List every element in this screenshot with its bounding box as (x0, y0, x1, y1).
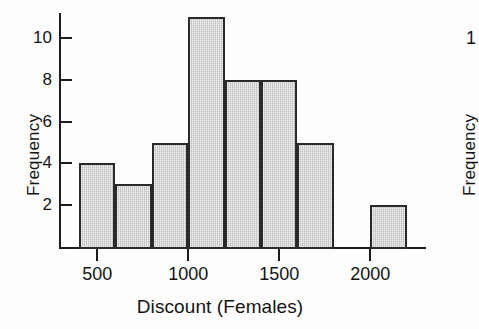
histogram-bar (297, 143, 333, 250)
y-tick (61, 204, 72, 206)
histogram-bar (152, 143, 188, 250)
y-tick (61, 121, 72, 123)
x-tick-label: 2000 (335, 264, 405, 285)
x-tick-label: 1000 (153, 264, 223, 285)
histogram-bar (370, 205, 406, 249)
neighbour-y-axis-title: Frequency (460, 114, 479, 196)
y-axis-line (59, 13, 61, 249)
x-axis-title: Discount (Females) (0, 296, 440, 318)
y-tick-label: 10 (18, 28, 52, 48)
y-tick-label: 2 (18, 195, 52, 215)
histogram-figure: Frequency 246810 500100015002000 Discoun… (0, 0, 479, 329)
histogram-bar (115, 184, 151, 249)
y-tick (61, 37, 72, 39)
histogram-bar (188, 17, 224, 249)
y-tick (61, 162, 72, 164)
histogram-bar (225, 80, 261, 249)
x-tick (278, 249, 280, 261)
x-tick (369, 249, 371, 261)
x-tick (187, 249, 189, 261)
histogram-bar (79, 163, 115, 249)
histogram-bar (261, 80, 297, 249)
y-tick-label: 8 (18, 70, 52, 90)
y-tick (61, 79, 72, 81)
y-tick-label: 6 (18, 112, 52, 132)
plot-area: 246810 500100015002000 (0, 0, 479, 260)
y-tick-label: 4 (18, 153, 52, 173)
x-tick-label: 500 (62, 264, 132, 285)
neighbour-y-tick-label: 1 (466, 28, 476, 49)
x-tick (96, 249, 98, 261)
x-tick-label: 1500 (244, 264, 314, 285)
